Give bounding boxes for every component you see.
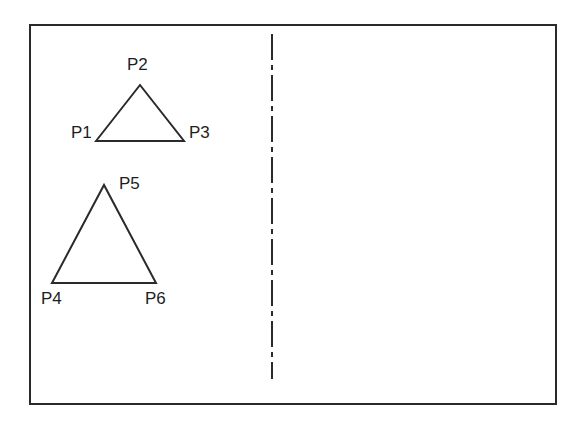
geometry-diagram: P1 P2 P3 P4 P5 P6 [0,0,581,423]
label-p2: P2 [127,55,148,74]
diagram-frame [30,25,556,404]
triangle-small [96,85,184,141]
label-p4: P4 [41,289,62,308]
label-p1: P1 [71,123,92,142]
label-p5: P5 [119,174,140,193]
triangle-large [52,185,156,283]
label-p6: P6 [145,289,166,308]
label-p3: P3 [189,123,210,142]
